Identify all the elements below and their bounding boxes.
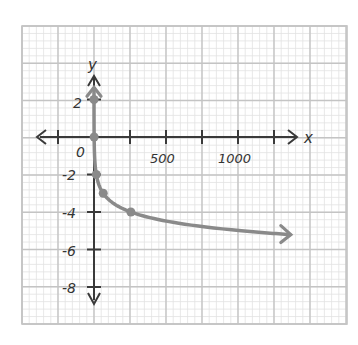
- graph-canvas: y x 0 500 1000 2 -2 -4 -6 -8: [0, 0, 358, 345]
- y-tick-label-neg8: -8: [62, 280, 76, 296]
- y-tick-label-neg2: -2: [62, 167, 76, 183]
- data-point: [99, 189, 108, 198]
- y-tick-label-2: 2: [73, 95, 82, 111]
- origin-label: 0: [76, 144, 85, 160]
- y-tick-label-neg4: -4: [62, 205, 76, 221]
- function-curve: [87, 87, 291, 242]
- x-tick-label-500: 500: [150, 151, 175, 166]
- y-axis-label: y: [87, 56, 98, 74]
- data-point: [126, 208, 135, 217]
- data-point: [90, 133, 99, 142]
- x-axis-label: x: [303, 129, 313, 147]
- data-point: [90, 95, 99, 104]
- data-point: [92, 170, 101, 179]
- y-tick-label-neg6: -6: [62, 243, 76, 259]
- x-tick-label-1000: 1000: [218, 151, 251, 166]
